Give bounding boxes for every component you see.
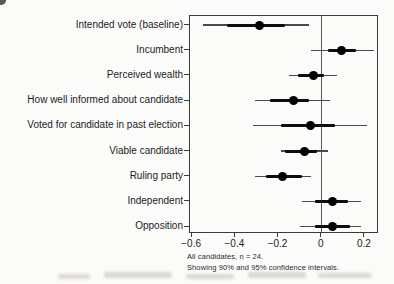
page-bleed-artifact xyxy=(318,273,372,278)
y-axis-label: Opposition xyxy=(0,219,183,232)
plot-box xyxy=(189,15,378,233)
coefficient-plot-figure: Intended vote (baseline)IncumbentPerceiv… xyxy=(0,0,394,284)
page-bleed-artifact xyxy=(104,272,172,278)
x-axis-tick-label: −0.2 xyxy=(261,238,295,249)
page-bleed-artifact xyxy=(58,274,90,279)
x-axis-tick xyxy=(363,233,364,237)
estimate-dot xyxy=(278,172,287,181)
page-bleed-artifact xyxy=(186,274,234,279)
x-axis-tick xyxy=(320,233,321,237)
x-axis-tick xyxy=(191,233,192,237)
scan-corner-artifact xyxy=(0,0,6,5)
page-bleed-artifact xyxy=(248,272,306,278)
figure-note: All candidates, n = 24. Showing 90% and … xyxy=(187,252,339,273)
x-axis-tick-label: 0 xyxy=(304,238,338,249)
x-axis-tick-label: −0.4 xyxy=(217,238,251,249)
y-axis-label: Intended vote (baseline) xyxy=(0,18,183,31)
y-axis-label: Ruling party xyxy=(0,169,183,182)
y-axis-label: How well informed about candidate xyxy=(0,93,183,106)
estimate-dot xyxy=(328,222,337,231)
estimate-dot xyxy=(309,71,318,80)
estimate-dot xyxy=(289,96,298,105)
estimate-dot xyxy=(306,121,315,130)
estimate-dot xyxy=(337,46,346,55)
y-axis-label: Independent xyxy=(0,194,183,207)
estimate-dot xyxy=(255,21,264,30)
estimate-dot xyxy=(300,147,309,156)
y-axis-label: Viable candidate xyxy=(0,144,183,157)
x-axis-tick xyxy=(277,233,278,237)
x-axis-tick xyxy=(234,233,235,237)
y-axis-label: Voted for candidate in past election xyxy=(0,118,183,131)
y-axis-label: Incumbent xyxy=(0,43,183,56)
x-axis-tick-label: −0.6 xyxy=(174,238,208,249)
estimate-dot xyxy=(328,197,337,206)
y-axis-label: Perceived wealth xyxy=(0,68,183,81)
figure-note-line1: All candidates, n = 24. xyxy=(187,252,339,263)
x-axis-tick-label: 0.2 xyxy=(347,238,381,249)
